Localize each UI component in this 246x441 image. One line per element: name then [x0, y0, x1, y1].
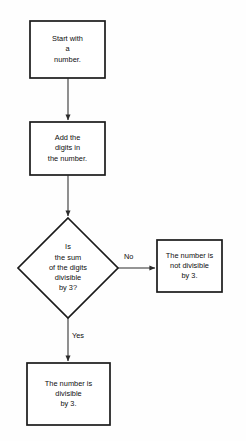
node-shape-add-digits[interactable] — [30, 122, 105, 175]
edge-label-no: No — [124, 252, 133, 261]
flowchart-shapes — [0, 0, 246, 441]
node-shape-start[interactable] — [30, 21, 105, 78]
node-shape-not-divisible[interactable] — [157, 240, 222, 292]
edge-label-yes: Yes — [72, 331, 84, 340]
node-shape-decision[interactable] — [18, 218, 118, 318]
flowchart-canvas: Start with a number. Add the digits in t… — [0, 0, 246, 441]
node-shape-divisible[interactable] — [27, 363, 110, 425]
